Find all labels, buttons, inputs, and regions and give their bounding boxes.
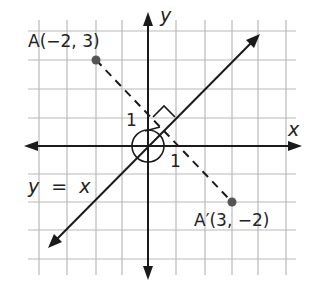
point-a-prime xyxy=(228,198,237,207)
right-angle-marker xyxy=(153,106,175,117)
x-axis-right-arrow-icon xyxy=(288,141,302,151)
coordinate-plane-diagram: y x A(−2, 3) A′(3, −2) y = x 1 1 xyxy=(0,0,314,292)
angle-label-1-bottom: 1 xyxy=(170,151,181,171)
point-a-label: A(−2, 3) xyxy=(28,31,100,51)
point-a-prime-label: A′(3, −2) xyxy=(194,210,269,230)
grid xyxy=(28,20,296,275)
line-equation-label: y = x xyxy=(27,175,91,197)
x-axis-left-arrow-icon xyxy=(24,141,38,151)
dashed-segment-a-to-a-prime xyxy=(96,60,232,202)
y-axis-down-arrow-icon xyxy=(143,266,153,280)
y-axis-up-arrow-icon xyxy=(143,12,153,26)
point-a xyxy=(92,56,101,65)
x-axis-label: x xyxy=(287,118,300,140)
angle-label-1-top: 1 xyxy=(126,110,137,130)
y-axis-label: y xyxy=(159,4,172,26)
